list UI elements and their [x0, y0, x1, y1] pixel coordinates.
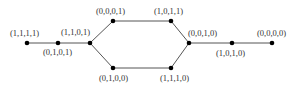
node-label: (1,0,1,0) — [216, 48, 245, 58]
node-label: (1,1,1,0) — [160, 73, 189, 83]
graph-node — [230, 41, 235, 46]
node-label: (0,1,0,0) — [99, 73, 128, 83]
graph-node — [270, 41, 275, 46]
graph-node — [111, 66, 116, 71]
node-labels: (1,1,1,1)(0,1,0,1)(1,1,0,1)(0,0,0,1)(0,1… — [10, 6, 286, 83]
edge — [171, 21, 189, 43]
edge — [90, 21, 113, 43]
node-label: (1,1,0,1) — [61, 27, 90, 37]
graph-node — [111, 19, 116, 24]
graph-node — [88, 41, 93, 46]
graph-node — [187, 41, 192, 46]
graph-node — [56, 41, 61, 46]
graph-node — [25, 41, 30, 46]
node-label: (0,0,0,1) — [96, 6, 125, 16]
node-label: (0,0,0,0) — [257, 28, 286, 38]
graph-node — [169, 66, 174, 71]
edge — [90, 43, 113, 68]
graph-node — [169, 19, 174, 24]
node-label: (0,1,0,1) — [43, 47, 72, 57]
node-label: (1,0,1,1) — [154, 6, 183, 16]
node-label: (0,0,1,0) — [188, 28, 217, 38]
node-label: (1,1,1,1) — [10, 28, 39, 38]
edge — [171, 43, 189, 68]
graph-diagram: (1,1,1,1)(0,1,0,1)(1,1,0,1)(0,0,0,1)(0,1… — [0, 0, 298, 97]
